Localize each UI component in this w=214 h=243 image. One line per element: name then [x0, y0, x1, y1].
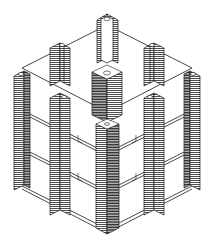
diagram-canvas — [0, 0, 214, 243]
pillar-back-top — [97, 14, 118, 63]
pillar-center-cross — [92, 65, 122, 122]
pillar-back-left — [50, 43, 70, 86]
pillar-right-corner — [184, 71, 200, 190]
pillar-front-corner — [96, 119, 119, 234]
isometric-structure-drawing — [0, 0, 214, 243]
pillar-front-left-mid — [50, 93, 70, 215]
pillar-front-right-mid — [144, 93, 164, 215]
pillar-left-corner — [14, 71, 30, 190]
pillar-back-right — [144, 43, 164, 86]
